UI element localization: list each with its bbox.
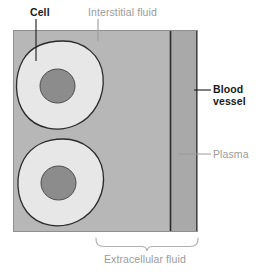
label-cell: Cell [30,6,50,18]
label-interstitial-fluid: Interstitial fluid [88,6,157,18]
blood-vessel-region [170,31,197,232]
label-plasma: Plasma [213,148,249,160]
body-fluid-compartments-figure: Cell Interstitial fluid Blood vessel Pla… [0,0,262,276]
extracellular-fluid-bracket [96,238,198,251]
label-blood-vessel: Blood vessel [213,83,246,108]
label-extracellular-fluid: Extracellular fluid [104,253,186,265]
label-blood-vessel-line2: vessel [213,95,246,107]
cell-upper-nucleus [40,69,75,103]
diagram-canvas [0,0,262,276]
label-blood-vessel-line1: Blood [213,83,246,95]
cell-lower-nucleus [41,166,76,200]
